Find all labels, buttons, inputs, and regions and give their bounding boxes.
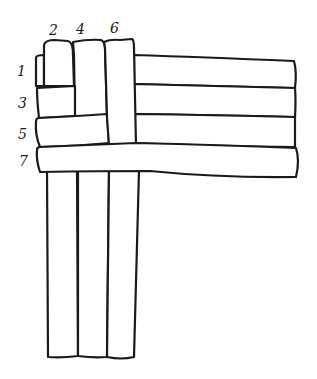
label-horizontal-1: 1 — [17, 63, 26, 79]
vertical-strip-4-top — [73, 40, 107, 117]
horizontal-strip-5-right — [134, 114, 295, 147]
weaving-diagram: 2 4 6 1 3 5 7 — [0, 0, 317, 379]
vertical-strip-left-lower — [47, 170, 78, 357]
horizontal-strip-1 — [36, 55, 44, 86]
vertical-strip-middle-lower — [78, 170, 109, 357]
horizontal-strip-3 — [37, 86, 75, 118]
horizontal-strip-5 — [36, 114, 109, 147]
label-horizontal-7: 7 — [19, 153, 28, 169]
label-vertical-2: 2 — [48, 22, 58, 38]
label-horizontal-3: 3 — [18, 95, 27, 111]
vertical-strip-2 — [44, 40, 74, 86]
label-vertical-6: 6 — [110, 20, 119, 36]
label-vertical-4: 4 — [75, 21, 85, 37]
vertical-strip-right-lower — [107, 170, 139, 359]
label-horizontal-5: 5 — [18, 126, 27, 142]
horizontal-strip-7 — [37, 143, 298, 177]
horizontal-strip-1-right — [134, 55, 296, 88]
vertical-strip-lower-segments — [47, 170, 139, 359]
vertical-strip-6 — [104, 39, 136, 146]
horizontal-strip-3-right — [134, 84, 296, 117]
